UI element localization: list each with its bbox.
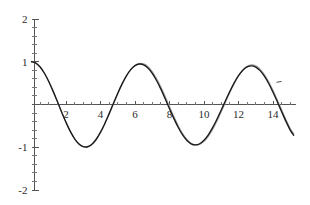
y-axis-tick-labels: 21-1-2 bbox=[18, 13, 27, 196]
chart-canvas: 2468101214 21-1-2 bbox=[0, 0, 310, 205]
x-tick-label: 4 bbox=[98, 108, 104, 120]
y-tick-label: -1 bbox=[18, 141, 27, 153]
axes-group bbox=[32, 19, 297, 191]
x-tick-label: 10 bbox=[199, 108, 211, 120]
y-tick-label: 2 bbox=[22, 13, 28, 25]
y-tick-label: 1 bbox=[22, 56, 28, 68]
x-tick-label: 14 bbox=[268, 108, 280, 120]
x-tick-label: 12 bbox=[233, 108, 244, 120]
x-tick-label: 6 bbox=[132, 108, 138, 120]
annotations-group bbox=[277, 81, 282, 82]
plot-figure: 2468101214 21-1-2 bbox=[0, 0, 310, 205]
stray-tick-mark bbox=[277, 81, 282, 82]
y-tick-label: -2 bbox=[18, 184, 27, 196]
x-axis-ticks bbox=[40, 101, 290, 105]
